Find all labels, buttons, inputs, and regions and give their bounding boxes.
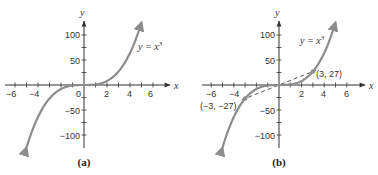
x-tick-label: 4 <box>127 89 132 99</box>
point-label-negative: (−3, −27) <box>200 101 237 111</box>
y-axis-label: y <box>274 7 280 18</box>
x-tick-label: 2 <box>104 89 109 99</box>
point-neg3-neg27 <box>243 96 248 101</box>
y-tick-label: 50 <box>265 56 275 66</box>
x-tick-label: 2 <box>299 89 304 99</box>
x-tick-label: −6 <box>206 89 216 99</box>
panel-caption: (a) <box>78 156 91 169</box>
y-axis-label: y <box>79 7 85 18</box>
x-tick-label: −4 <box>29 89 39 99</box>
x-tick-label: 6 <box>148 89 153 99</box>
panel-caption: (b) <box>272 156 286 169</box>
y-tick-label: −50 <box>65 106 80 116</box>
y-tick-label: −50 <box>260 106 275 116</box>
panel-b: y x −6 −4 2 4 6 100 50 −50 −100 y = x3 (… <box>200 7 374 169</box>
y-tick-label: −100 <box>60 131 80 141</box>
y-tick-label: 50 <box>70 56 80 66</box>
equation-label: y = x3 <box>137 40 163 52</box>
panel-a: y x −6 −4 0 2 4 6 100 50 −50 −100 y = x3… <box>5 7 179 169</box>
x-tick-label: −4 <box>229 89 239 99</box>
x-tick-label: 4 <box>321 89 326 99</box>
y-tick-label: 100 <box>260 30 275 40</box>
x-tick-label: 6 <box>344 89 349 99</box>
origin-label: 0 <box>76 89 81 99</box>
chart-figure: y x −6 −4 0 2 4 6 100 50 −50 −100 y = x3… <box>0 0 378 175</box>
x-axis-label: x <box>173 80 179 91</box>
x-axis-label: x <box>368 80 374 91</box>
y-tick-label: −100 <box>255 131 275 141</box>
x-tick-label: −6 <box>6 89 16 99</box>
y-tick-label: 100 <box>65 30 80 40</box>
point-3-27 <box>311 69 316 74</box>
point-label-positive: (3, 27) <box>316 69 342 79</box>
equation-label: y = x3 <box>299 34 325 46</box>
